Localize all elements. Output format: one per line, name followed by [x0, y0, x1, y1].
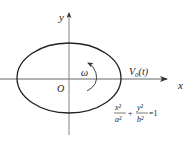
omega-label: ω	[81, 67, 88, 78]
x-axis-label: x	[177, 79, 183, 91]
eq-term2-denominator: b²	[137, 115, 144, 124]
velocity-label: V0(t)	[129, 66, 149, 79]
eq-term2-numerator: y²	[136, 103, 144, 112]
ellipse-equation: x² a² + y² b² =1	[114, 103, 158, 124]
ellipse-diagram: y x O ω V0(t) x² a² + y² b² =1	[0, 0, 194, 142]
origin-label: O	[57, 83, 64, 94]
eq-term1-numerator: x²	[114, 103, 122, 112]
eq-term1-denominator: a²	[115, 115, 122, 124]
eq-rhs: =1	[149, 109, 158, 118]
y-axis-label: y	[58, 11, 64, 23]
eq-plus: +	[128, 109, 133, 118]
rotation-arrow-icon	[87, 63, 97, 91]
